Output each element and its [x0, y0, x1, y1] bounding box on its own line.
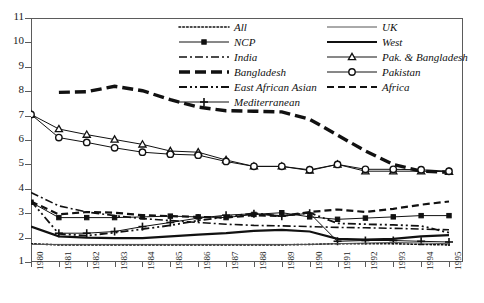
legend-item-pakistan[interactable]: Pakistan — [326, 64, 421, 79]
data-point-marker — [85, 215, 89, 219]
data-point-marker — [306, 167, 312, 173]
legend-label: India — [234, 51, 257, 63]
data-point-marker — [111, 145, 117, 151]
legend-line-sample — [326, 20, 378, 34]
legend-line-sample — [326, 35, 378, 49]
data-point-marker — [111, 228, 119, 236]
data-point-marker — [57, 215, 61, 219]
data-point-marker — [391, 215, 395, 219]
legend-item-pak-bangladesh[interactable]: Pak. & Bangladesh — [326, 49, 468, 64]
data-point-marker — [28, 111, 34, 117]
legend-line-sample — [178, 65, 230, 79]
legend-item-bangladesh[interactable]: Bangladesh — [178, 64, 286, 79]
legend-line-sample — [178, 95, 230, 109]
legend: AllNCPIndiaBangladeshEast African AsianM… — [178, 19, 458, 107]
legend-label: Africa — [382, 81, 410, 93]
legend-line-sample — [326, 50, 378, 64]
legend-line-sample — [326, 65, 378, 79]
data-point-marker — [446, 168, 452, 174]
legend-item-uk[interactable]: UK — [326, 19, 397, 34]
legend-label: East African Asian — [234, 81, 317, 93]
legend-line-sample — [178, 35, 230, 49]
legend-line-sample — [178, 20, 230, 34]
series-ncp — [29, 200, 451, 221]
data-point-marker — [363, 216, 367, 220]
legend-item-africa[interactable]: Africa — [326, 79, 410, 94]
data-point-marker — [139, 141, 146, 147]
chart-figure: 1234567891011 19801981198219831984198519… — [0, 0, 484, 303]
legend-label: Pak. & Bangladesh — [382, 51, 468, 63]
legend-line-sample — [178, 80, 230, 94]
data-point-marker — [362, 166, 368, 172]
legend-item-all[interactable]: All — [178, 19, 247, 34]
series-east-african-asian — [31, 201, 449, 236]
legend-label: UK — [382, 21, 397, 33]
data-point-marker — [419, 213, 423, 217]
data-point-marker — [139, 149, 145, 155]
series-pak-bangladesh — [27, 111, 452, 175]
data-point-marker — [111, 136, 118, 142]
data-point-marker — [335, 217, 339, 221]
legend-label: Pakistan — [382, 66, 421, 78]
legend-item-mediterranean[interactable]: Mediterranean — [178, 94, 300, 109]
legend-item-west[interactable]: West — [326, 34, 402, 49]
data-point-marker — [390, 166, 396, 172]
legend-label: Bangladesh — [234, 66, 286, 78]
legend-item-east-african-asian[interactable]: East African Asian — [178, 79, 317, 94]
legend-label: West — [382, 36, 402, 48]
data-point-marker — [55, 125, 62, 131]
data-point-marker — [84, 139, 90, 145]
data-point-marker — [418, 167, 424, 173]
legend-label: NCP — [234, 36, 255, 48]
data-point-marker — [251, 163, 257, 169]
legend-label: All — [234, 21, 247, 33]
series-africa — [31, 202, 449, 218]
data-point-marker — [279, 163, 285, 169]
legend-item-india[interactable]: India — [178, 49, 257, 64]
data-point-marker — [56, 134, 62, 140]
legend-line-sample — [178, 50, 230, 64]
data-point-marker — [195, 152, 201, 158]
data-point-marker — [223, 158, 229, 164]
series-pakistan — [28, 111, 452, 174]
data-point-marker — [167, 151, 173, 157]
legend-label: Mediterranean — [234, 96, 300, 108]
data-point-marker — [83, 131, 90, 137]
legend-item-ncp[interactable]: NCP — [178, 34, 255, 49]
data-point-marker — [447, 213, 451, 217]
data-point-marker — [334, 161, 340, 167]
legend-line-sample — [326, 80, 378, 94]
